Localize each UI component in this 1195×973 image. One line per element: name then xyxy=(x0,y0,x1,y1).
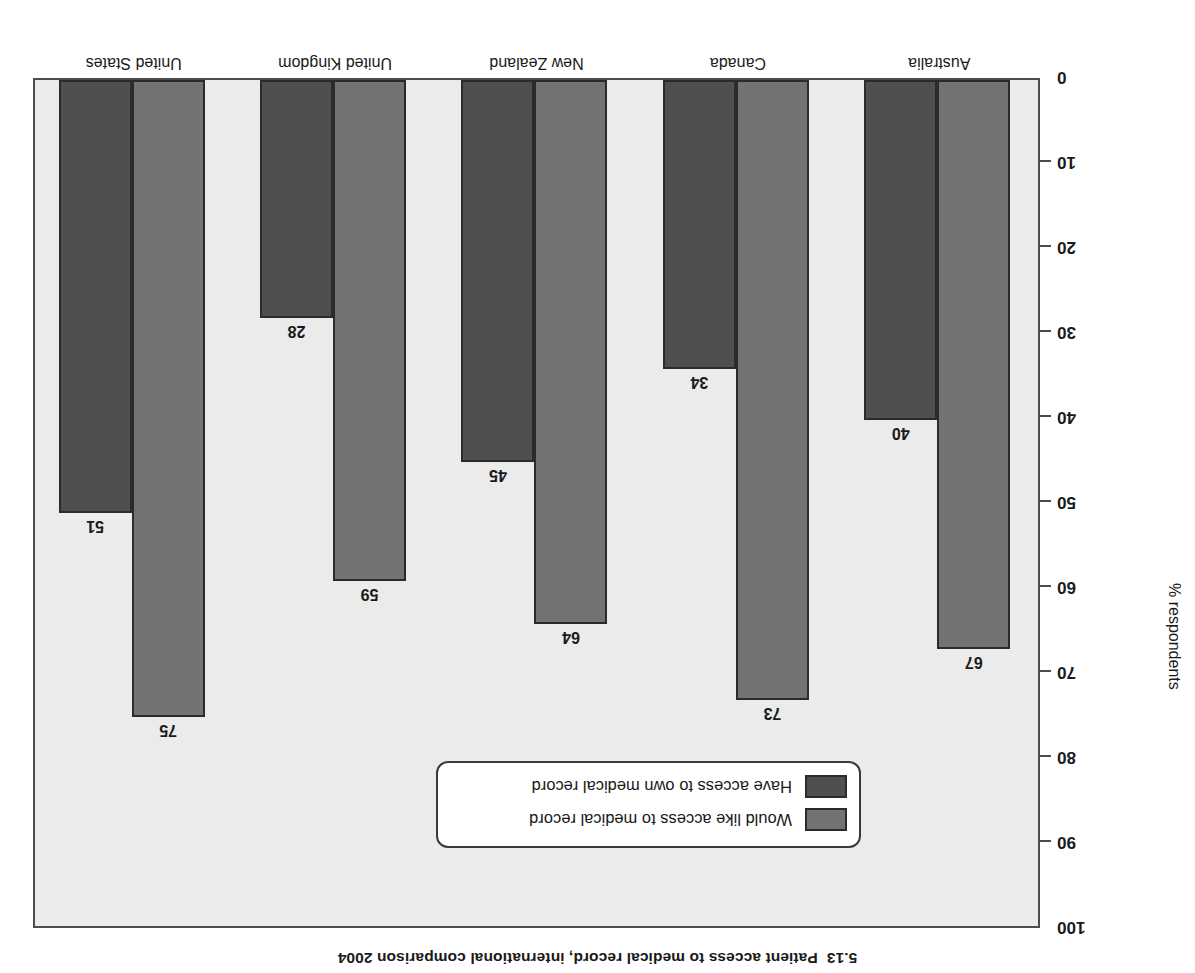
x-axis-category-label: Canada xyxy=(637,52,838,74)
bar-value-label: 28 xyxy=(288,322,306,340)
bar: 40 xyxy=(864,80,937,420)
legend-item-label: Have access to own medical record xyxy=(532,777,792,796)
y-axis-tick-label: 100 xyxy=(1057,916,1085,938)
legend-item: Have access to own medical record xyxy=(450,771,847,802)
bar: 67 xyxy=(937,80,1010,650)
bar-value-label: 59 xyxy=(361,586,379,604)
y-axis-tick-label: 10 xyxy=(1057,151,1076,173)
bar: 45 xyxy=(462,80,535,463)
x-axis-category-label: New Zealand xyxy=(436,52,637,74)
y-axis-tick-mark xyxy=(1040,585,1051,587)
x-axis-category-label: United States xyxy=(33,52,234,74)
figure-title-text: Patient access to medical record, intern… xyxy=(338,950,818,967)
bar: 64 xyxy=(535,80,608,624)
y-axis-tick-label: 90 xyxy=(1057,831,1076,853)
bar-value-label: 45 xyxy=(489,467,507,485)
bar-value-label: 67 xyxy=(965,654,983,672)
bar: 34 xyxy=(663,80,736,369)
x-axis-category-label: United Kingdom xyxy=(234,52,435,74)
x-axis-labels: AustraliaCanadaNew ZealandUnited Kingdom… xyxy=(33,12,1040,74)
legend-color-swatch xyxy=(805,775,847,798)
y-axis-tick-mark xyxy=(1040,840,1051,842)
bar: 73 xyxy=(736,80,809,701)
x-axis-category-label: Australia xyxy=(839,52,1040,74)
legend-color-swatch xyxy=(805,808,847,831)
y-axis: 0102030405060708090100 xyxy=(1040,74,1195,928)
y-axis-tick-label: 60 xyxy=(1057,576,1076,598)
figure-title: 5.13Patient access to medical record, in… xyxy=(0,949,1195,967)
bar: 59 xyxy=(333,80,406,582)
y-axis-tick-mark xyxy=(1040,330,1051,332)
bar-value-label: 51 xyxy=(86,518,104,536)
y-axis-tick-mark xyxy=(1040,670,1051,672)
y-axis-tick-mark xyxy=(1040,500,1051,502)
y-axis-tick-mark xyxy=(1040,755,1051,757)
figure-number: 5.13 xyxy=(827,950,858,967)
bar-value-label: 75 xyxy=(159,722,177,740)
y-axis-tick-label: 30 xyxy=(1057,321,1076,343)
bar-value-label: 64 xyxy=(562,628,580,646)
y-axis-tick-mark xyxy=(1040,75,1051,77)
y-axis-tick-mark xyxy=(1040,925,1051,927)
y-axis-tick-mark xyxy=(1040,415,1051,417)
bar: 28 xyxy=(260,80,333,318)
bar: 75 xyxy=(132,80,205,718)
chart-legend: Would like access to medical recordHave … xyxy=(436,761,861,848)
y-axis-tick-label: 40 xyxy=(1057,406,1076,428)
bar-value-label: 40 xyxy=(892,424,910,442)
y-axis-tick-label: 50 xyxy=(1057,491,1076,513)
legend-item-label: Would like access to medical record xyxy=(529,810,792,829)
plot-area: 67407334644559287551 Would like access t… xyxy=(33,78,1040,928)
bar-value-label: 73 xyxy=(764,705,782,723)
y-axis-tick-mark xyxy=(1040,245,1051,247)
y-axis-tick-label: 80 xyxy=(1057,746,1076,768)
legend-item: Would like access to medical record xyxy=(450,804,847,835)
y-axis-tick-label: 0 xyxy=(1057,66,1066,88)
y-axis-tick-label: 70 xyxy=(1057,661,1076,683)
chart-figure: 5.13Patient access to medical record, in… xyxy=(0,0,1195,973)
y-axis-tick-label: 20 xyxy=(1057,236,1076,258)
y-axis-tick-mark xyxy=(1040,160,1051,162)
bar-value-label: 34 xyxy=(691,373,709,391)
y-axis-title: % respondents xyxy=(1165,583,1183,690)
bar: 51 xyxy=(59,80,132,514)
